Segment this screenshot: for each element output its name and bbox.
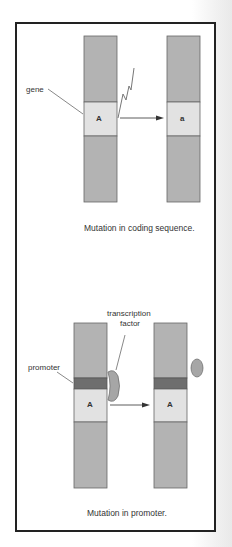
promoter-pointer-line — [57, 372, 73, 383]
allele-before-promoter: A — [87, 400, 93, 409]
transcription-factor-label-line1: transcription — [107, 309, 151, 318]
diagram-graphics — [0, 0, 232, 547]
allele-after-coding: a — [180, 114, 184, 123]
caption-coding: Mutation in coding sequence. — [84, 223, 195, 233]
gene-pointer-line — [48, 89, 83, 114]
gene-label: gene — [26, 85, 44, 94]
allele-before-coding: A — [96, 114, 102, 123]
arrow-promoter — [110, 403, 150, 408]
transcription-factor-free-icon — [191, 359, 203, 377]
arrow-coding — [120, 116, 164, 121]
promoter-label: promoter — [28, 363, 60, 372]
transcription-factor-pointer-line — [116, 335, 125, 370]
mutation-lightning-icon — [118, 68, 134, 118]
transcription-factor-label-line2: factor — [120, 319, 140, 328]
transcription-factor-bound-icon — [108, 371, 120, 402]
allele-after-promoter: A — [167, 400, 173, 409]
caption-promoter: Mutation in promoter. — [87, 508, 167, 518]
